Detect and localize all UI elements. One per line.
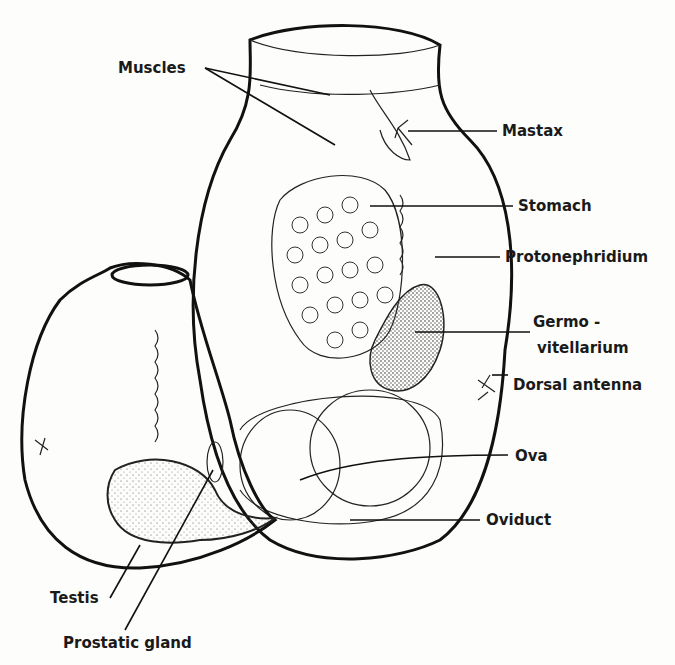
dorsal-antenna bbox=[478, 375, 495, 400]
ova bbox=[240, 390, 443, 524]
label-muscles: Muscles bbox=[118, 59, 186, 77]
testis bbox=[108, 442, 276, 543]
label-prostatic-gland: Prostatic gland bbox=[63, 634, 192, 652]
label-dorsal-antenna: Dorsal antenna bbox=[513, 376, 642, 394]
mastax bbox=[370, 90, 412, 160]
label-germovitellarium-2: vitellarium bbox=[537, 339, 629, 357]
germovitellarium bbox=[370, 285, 444, 391]
label-protonephridium: Protonephridium bbox=[505, 248, 648, 266]
label-oviduct: Oviduct bbox=[486, 511, 551, 529]
label-mastax: Mastax bbox=[502, 122, 563, 140]
leader-lines bbox=[110, 68, 530, 630]
rotifer-diagram: Muscles Mastax Stomach Protonephridium G… bbox=[0, 0, 675, 665]
label-germovitellarium-1: Germo - bbox=[533, 313, 600, 331]
label-testis: Testis bbox=[50, 589, 99, 607]
label-stomach: Stomach bbox=[518, 197, 592, 215]
label-ova: Ova bbox=[515, 447, 548, 465]
